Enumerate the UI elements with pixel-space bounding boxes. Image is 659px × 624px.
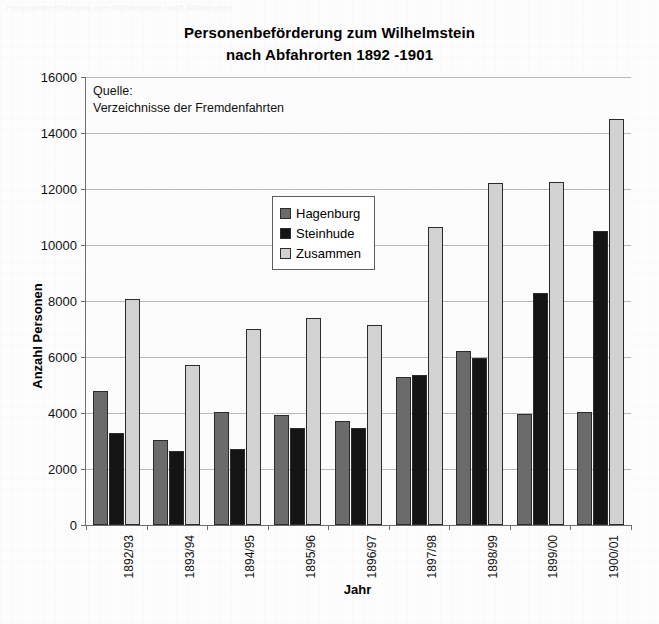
x-tick-label: 1899/00 [546,535,560,578]
x-tick-mark [449,525,450,530]
bar-zusammen-1894-95 [246,329,261,525]
x-tick-mark [570,525,571,530]
x-tick-label: 1894/95 [243,535,257,578]
bar-steinhude-1897-98 [412,375,427,525]
x-tick-mark [207,525,208,530]
x-tick-mark [631,525,632,530]
y-tick-label: 2000 [48,462,77,477]
chart-area: Anzahl Personen 020004000600080001000012… [30,66,630,606]
y-tick-label: 10000 [41,238,77,253]
bar-zusammen-1899-00 [549,182,564,525]
bar-series-container [86,77,631,525]
bar-group [449,77,510,525]
chart-title-line-1: Personenbeförderung zum Wilhelmstein [0,22,659,44]
bar-steinhude-1900-01 [593,231,608,525]
bar-group [86,77,147,525]
bar-steinhude-1895-96 [290,428,305,525]
bar-group [510,77,571,525]
bar-hagenburg-1897-98 [396,377,411,525]
bar-steinhude-1894-95 [230,449,245,525]
x-tick-label: 1900/01 [607,535,621,578]
bar-zusammen-1898-99 [488,183,503,525]
bar-hagenburg-1895-96 [274,415,289,525]
y-tick-label: 14000 [41,126,77,141]
y-tick-label: 4000 [48,406,77,421]
plot-area: 0200040006000800010000120001400016000 18… [85,77,631,526]
bar-hagenburg-1892-93 [93,391,108,525]
x-tick-mark [389,525,390,530]
bar-zusammen-1896-97 [367,325,382,525]
x-tick-label: 1892/93 [122,535,136,578]
legend-label: Zusammen [296,246,361,261]
bar-zusammen-1895-96 [306,318,321,525]
x-tick-mark [328,525,329,530]
bar-hagenburg-1894-95 [214,412,229,525]
bar-steinhude-1896-97 [351,428,366,525]
x-axis-title: Jahr [85,582,630,597]
x-tick-label: 1898/99 [486,535,500,578]
bar-group [328,77,389,525]
bar-hagenburg-1893-94 [153,440,168,525]
legend-label: Steinhude [296,226,355,241]
bar-zusammen-1893-94 [185,365,200,525]
source-note-line-1: Quelle: [93,83,284,100]
legend-swatch-icon [280,228,291,239]
y-tick-label: 6000 [48,350,77,365]
bar-steinhude-1898-99 [472,358,487,525]
bar-group [570,77,631,525]
bar-group [389,77,450,525]
chart-legend: HagenburgSteinhudeZusammen [272,196,375,270]
bar-zusammen-1897-98 [428,227,443,525]
bar-hagenburg-1899-00 [517,414,532,525]
bar-steinhude-1893-94 [169,451,184,525]
legend-item-zusammen: Zusammen [280,243,361,263]
x-tick-label: 1896/97 [365,535,379,578]
faint-page-header-text: Personenbeförderung zum Wilhelmstein nac… [6,3,336,11]
bar-zusammen-1892-93 [125,299,140,525]
source-note: Quelle: Verzeichnisse der Fremdenfahrten [93,83,284,117]
y-tick-label: 16000 [41,70,77,85]
x-tick-mark [147,525,148,530]
chart-title-line-2: nach Abfahrorten 1892 -1901 [0,44,659,66]
x-tick-mark [86,525,87,530]
y-tick-label: 0 [70,518,77,533]
y-axis-title: Anzahl Personen [30,283,45,388]
legend-swatch-icon [280,208,291,219]
bar-hagenburg-1896-97 [335,421,350,525]
chart-title: Personenbeförderung zum Wilhelmstein nac… [0,22,659,66]
bar-hagenburg-1898-99 [456,351,471,525]
x-tick-label: 1895/96 [304,535,318,578]
bar-group [147,77,208,525]
bar-zusammen-1900-01 [609,119,624,525]
legend-item-hagenburg: Hagenburg [280,203,361,223]
bar-group [207,77,268,525]
x-tick-label: 1897/98 [425,535,439,578]
legend-swatch-icon [280,248,291,259]
source-note-line-2: Verzeichnisse der Fremdenfahrten [93,100,284,117]
bar-group [268,77,329,525]
y-tick-label: 8000 [48,294,77,309]
bar-steinhude-1892-93 [109,433,124,525]
x-tick-mark [510,525,511,530]
bar-steinhude-1899-00 [533,293,548,525]
bar-hagenburg-1900-01 [577,412,592,525]
x-tick-label: 1893/94 [183,535,197,578]
y-tick-label: 12000 [41,182,77,197]
x-tick-mark [268,525,269,530]
legend-item-steinhude: Steinhude [280,223,361,243]
legend-label: Hagenburg [296,206,360,221]
